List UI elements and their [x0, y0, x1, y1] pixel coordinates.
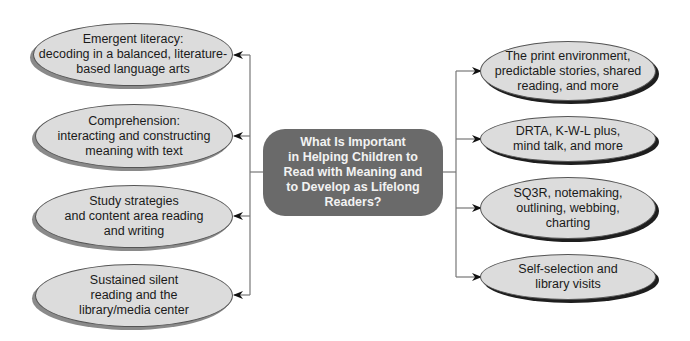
- node-label: Comprehension: interacting and construct…: [58, 114, 211, 159]
- right-node-sq3r: SQ3R, notemaking, outlining, webbing, ch…: [480, 177, 656, 239]
- node-label: Sustained silent reading and the library…: [79, 273, 189, 318]
- left-node-study-strategies: Study strategies and content area readin…: [35, 185, 233, 248]
- central-question-box: What Is Important in Helping Children to…: [263, 129, 443, 216]
- left-node-sustained-silent-reading: Sustained silent reading and the library…: [35, 264, 233, 327]
- left-node-comprehension: Comprehension: interacting and construct…: [35, 104, 233, 168]
- concept-map: What Is Important in Helping Children to…: [0, 0, 690, 341]
- node-label: Study strategies and content area readin…: [65, 194, 204, 239]
- right-node-self-selection: Self-selection and library visits: [480, 254, 656, 300]
- right-node-drta-kwl: DRTA, K-W-L plus, mind talk, and more: [480, 116, 656, 162]
- central-question-text: What Is Important in Helping Children to…: [284, 135, 423, 210]
- node-label: SQ3R, notemaking, outlining, webbing, ch…: [513, 186, 622, 231]
- node-label: Emergent literacy: decoding in a balance…: [39, 32, 227, 77]
- node-label: The print environment, predictable stori…: [495, 49, 642, 94]
- node-label: DRTA, K-W-L plus, mind talk, and more: [513, 124, 623, 154]
- node-label: Self-selection and library visits: [518, 262, 617, 292]
- left-node-emergent-literacy: Emergent literacy: decoding in a balance…: [33, 23, 233, 86]
- right-node-print-environment: The print environment, predictable stori…: [480, 41, 656, 101]
